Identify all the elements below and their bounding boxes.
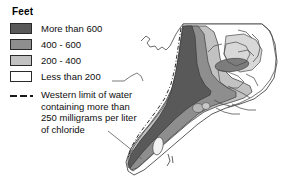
dashed-line-icon: [10, 90, 34, 102]
legend-label-400-600: 400 - 600: [41, 39, 81, 51]
legend-label-chloride-limit: Western limit of water containing more t…: [41, 89, 137, 135]
swatch-more-than-600: [10, 23, 32, 34]
map-figure: Feet More than 600 400 - 600 200 - 400 L…: [0, 0, 283, 184]
legend-row-200-400: 200 - 400: [10, 55, 150, 68]
legend: Feet More than 600 400 - 600 200 - 400 L…: [10, 6, 150, 135]
legend-label-less-than-200: Less than 200: [41, 71, 101, 83]
sw-lobe-marks: [167, 154, 173, 166]
legend-row-more-than-600: More than 600: [10, 23, 150, 36]
legend-title: Feet: [12, 6, 150, 17]
legend-label-more-than-600: More than 600: [41, 23, 102, 35]
swatch-400-600: [10, 39, 32, 50]
swatch-200-400: [10, 55, 32, 66]
legend-label-200-400: 200 - 400: [41, 55, 81, 67]
swatch-less-than-200: [10, 71, 32, 82]
chloride-line-3: 250 milligrams per liter: [41, 112, 137, 124]
chloride-line-1: Western limit of water: [41, 89, 137, 101]
legend-row-400-600: 400 - 600: [10, 39, 150, 52]
chloride-line-4: of chloride: [41, 124, 137, 136]
legend-row-less-than-200: Less than 200: [10, 71, 150, 84]
legend-row-chloride-limit: Western limit of water containing more t…: [10, 89, 150, 135]
chloride-line-2: containing more than: [41, 101, 137, 113]
